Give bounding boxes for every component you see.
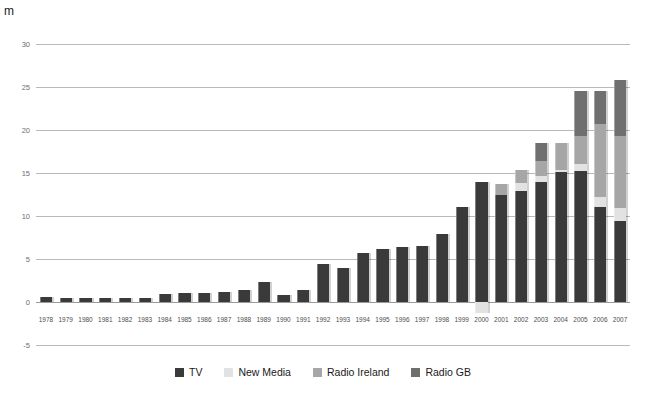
- bar-column[interactable]: [198, 44, 210, 345]
- bar-segment[interactable]: [40, 297, 52, 302]
- bar-column[interactable]: [139, 44, 151, 345]
- bar-segment[interactable]: [574, 164, 586, 172]
- bar-segment[interactable]: [594, 124, 606, 197]
- bar-segment[interactable]: [357, 253, 369, 302]
- bar-segment[interactable]: [178, 293, 190, 302]
- bar-segment[interactable]: [119, 298, 131, 302]
- bar-segment[interactable]: [159, 294, 171, 302]
- x-axis-label-2006: 2006: [593, 316, 607, 323]
- bar-segment[interactable]: [376, 249, 388, 302]
- legend-swatch-icon: [175, 368, 184, 377]
- bar-column[interactable]: [60, 44, 72, 345]
- x-axis-label-1999: 1999: [454, 316, 468, 323]
- bar-column[interactable]: [317, 44, 329, 345]
- y-axis-tick-25: 25: [22, 83, 30, 92]
- bar-segment[interactable]: [396, 247, 408, 302]
- bar-column[interactable]: [357, 44, 369, 345]
- bar-segment[interactable]: [614, 80, 626, 136]
- bar-segment[interactable]: [317, 264, 329, 302]
- bar-column[interactable]: [594, 44, 606, 345]
- bar-column[interactable]: [79, 44, 91, 345]
- bar-segment[interactable]: [456, 207, 468, 302]
- bar-segment[interactable]: [614, 208, 626, 221]
- bar-column[interactable]: [436, 44, 448, 345]
- bar-segment[interactable]: [258, 282, 270, 302]
- bar-segment[interactable]: [535, 161, 547, 176]
- bar-segment[interactable]: [515, 191, 527, 302]
- bar-segment[interactable]: [198, 293, 210, 302]
- y-axis-tick-30: 30: [22, 40, 30, 49]
- x-axis-label-1993: 1993: [336, 316, 350, 323]
- bar-column[interactable]: [178, 44, 190, 345]
- legend-item-radioireland[interactable]: Radio Ireland: [313, 366, 389, 378]
- bar-column[interactable]: [159, 44, 171, 345]
- bar-column[interactable]: [396, 44, 408, 345]
- bar-segment[interactable]: [297, 290, 309, 302]
- x-axis-label-1987: 1987: [217, 316, 231, 323]
- bar-segment[interactable]: [139, 298, 151, 302]
- x-axis-label-1990: 1990: [276, 316, 290, 323]
- bar-column[interactable]: [614, 44, 626, 345]
- legend-item-radiogb[interactable]: Radio GB: [411, 366, 471, 378]
- chart-legend: TVNew MediaRadio IrelandRadio GB: [0, 366, 646, 378]
- bar-segment[interactable]: [614, 221, 626, 302]
- x-axis-label-1988: 1988: [237, 316, 251, 323]
- bar-column[interactable]: [218, 44, 230, 345]
- bar-column[interactable]: [495, 44, 507, 345]
- bar-column[interactable]: [535, 44, 547, 345]
- bar-segment[interactable]: [99, 298, 111, 302]
- bar-segment[interactable]: [60, 298, 72, 302]
- legend-swatch-icon: [313, 368, 322, 377]
- x-axis-label-2005: 2005: [573, 316, 587, 323]
- bar-column[interactable]: [376, 44, 388, 345]
- bar-column[interactable]: [574, 44, 586, 345]
- bar-column[interactable]: [456, 44, 468, 345]
- legend-swatch-icon: [411, 368, 420, 377]
- legend-item-newmedia[interactable]: New Media: [224, 366, 291, 378]
- bar-segment[interactable]: [515, 170, 527, 184]
- x-axis-label-1994: 1994: [355, 316, 369, 323]
- bars-group: [36, 44, 630, 345]
- bar-segment[interactable]: [495, 184, 507, 195]
- bar-column[interactable]: [40, 44, 52, 345]
- bar-column[interactable]: [555, 44, 567, 345]
- bar-segment[interactable]: [574, 91, 586, 136]
- bar-segment[interactable]: [495, 195, 507, 302]
- bar-column[interactable]: [297, 44, 309, 345]
- bar-segment[interactable]: [535, 176, 547, 183]
- bar-segment[interactable]: [238, 290, 250, 302]
- bar-segment[interactable]: [594, 197, 606, 206]
- bar-segment[interactable]: [515, 183, 527, 191]
- bar-column[interactable]: [515, 44, 527, 345]
- bar-segment[interactable]: [594, 91, 606, 124]
- bar-segment[interactable]: [555, 172, 567, 302]
- bar-segment[interactable]: [475, 182, 487, 302]
- bar-column[interactable]: [258, 44, 270, 345]
- bar-segment[interactable]: [574, 136, 586, 164]
- bar-segment[interactable]: [277, 295, 289, 302]
- bar-column[interactable]: [119, 44, 131, 345]
- bar-segment[interactable]: [555, 170, 567, 173]
- bar-column[interactable]: [238, 44, 250, 345]
- bar-segment[interactable]: [535, 143, 547, 161]
- y-axis-tick-10: 10: [22, 212, 30, 221]
- bar-segment[interactable]: [574, 171, 586, 302]
- bar-column[interactable]: [99, 44, 111, 345]
- bar-segment[interactable]: [535, 182, 547, 302]
- bar-segment[interactable]: [218, 292, 230, 302]
- x-axis-label-1985: 1985: [177, 316, 191, 323]
- bar-column[interactable]: [475, 44, 487, 345]
- bar-segment[interactable]: [594, 207, 606, 302]
- y-axis-tick-0: 0: [26, 298, 30, 307]
- bar-segment[interactable]: [337, 268, 349, 302]
- bar-segment[interactable]: [79, 298, 91, 302]
- bar-segment[interactable]: [555, 143, 567, 170]
- bar-segment[interactable]: [416, 246, 428, 302]
- bar-column[interactable]: [277, 44, 289, 345]
- bar-segment[interactable]: [614, 136, 626, 208]
- bar-column[interactable]: [337, 44, 349, 345]
- legend-item-tv[interactable]: TV: [175, 366, 202, 378]
- bar-segment[interactable]: [436, 234, 448, 302]
- bar-column[interactable]: [416, 44, 428, 345]
- bar-segment[interactable]: [475, 302, 487, 313]
